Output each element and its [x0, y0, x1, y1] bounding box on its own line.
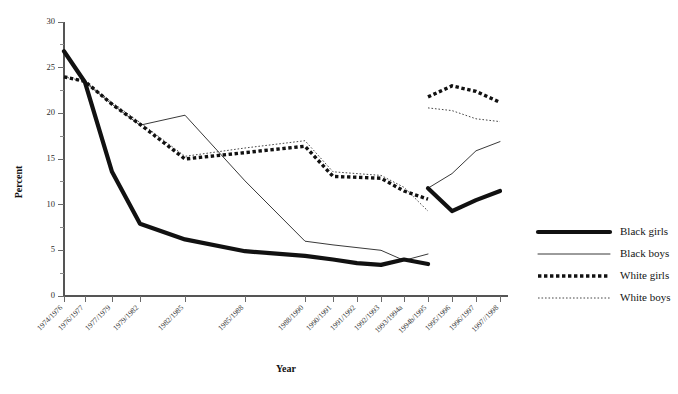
- y-tick-label: 20: [47, 107, 56, 117]
- x-tick-label: 1982/1985: [156, 303, 185, 332]
- chart-legend: Black girlsBlack boysWhite girlsWhite bo…: [538, 225, 670, 303]
- x-tick-label: 1977/1979: [83, 303, 112, 332]
- x-tick-group: [64, 296, 500, 302]
- x-tick-label: 1979/1982: [111, 303, 140, 332]
- line-chart-canvas: 051015202530 Percent 1974/19761976/19771…: [0, 0, 678, 394]
- chart-figure: 051015202530 Percent 1974/19761976/19771…: [0, 0, 678, 394]
- x-axis: 1974/19761976/19771977/19791979/19821982…: [35, 296, 508, 374]
- series-line-white-boys-segment-2: [428, 108, 500, 122]
- y-tick-label: 15: [47, 153, 56, 163]
- y-tick-label: 5: [51, 244, 55, 254]
- series-line-black-girls-segment-1: [64, 51, 428, 265]
- legend-label: Black girls: [620, 225, 668, 237]
- legend-label: White girls: [620, 269, 669, 281]
- y-tick-label: 30: [47, 16, 56, 26]
- x-tick-label-group: 1974/19761976/19771977/19791979/19821982…: [35, 303, 500, 335]
- legend-label: White boys: [620, 291, 670, 303]
- y-axis: 051015202530 Percent: [13, 16, 64, 300]
- x-tick-label: 1985/1988: [216, 303, 245, 332]
- series-line-black-girls-segment-2: [428, 188, 500, 211]
- series-line-white-boys-segment-1: [64, 77, 428, 211]
- series-line-black-boys-segment-1: [64, 51, 428, 260]
- legend-label: Black boys: [620, 247, 669, 259]
- y-axis-title: Percent: [13, 165, 24, 198]
- y-tick-label: 0: [51, 290, 55, 300]
- y-tick-label: 25: [47, 62, 56, 72]
- y-tick-group: [58, 22, 64, 296]
- x-axis-title: Year: [276, 363, 297, 374]
- series-line-white-girls-segment-2: [428, 86, 500, 103]
- y-tick-label: 10: [47, 199, 56, 209]
- x-tick-label: 1988/1990: [276, 303, 305, 332]
- series-line-black-boys-segment-2: [428, 142, 500, 189]
- series-group: [64, 51, 500, 265]
- y-tick-label-group: 051015202530: [47, 16, 56, 300]
